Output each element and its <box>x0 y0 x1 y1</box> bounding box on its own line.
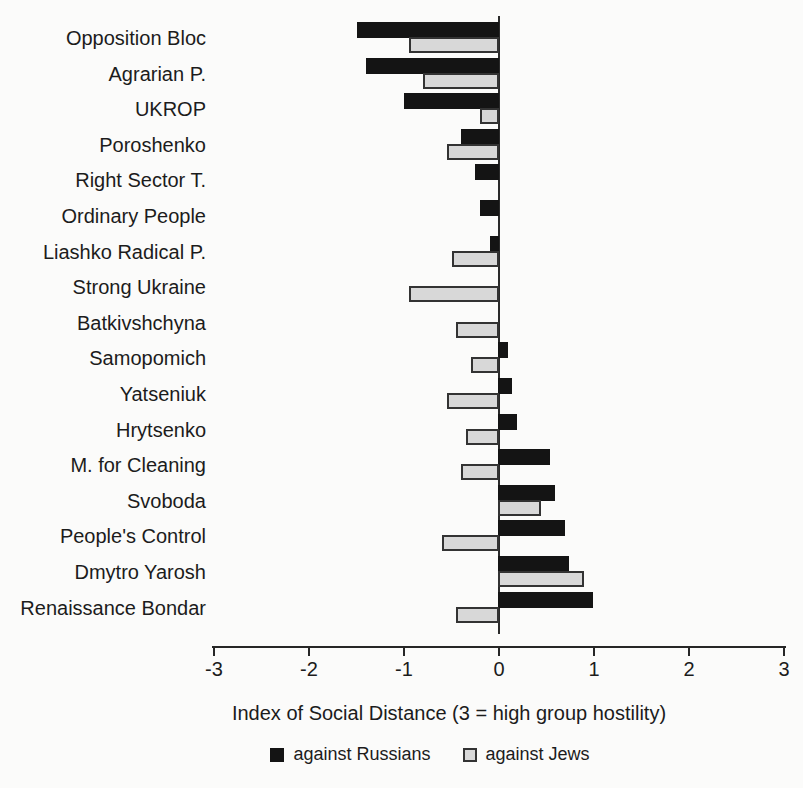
bar-jews <box>452 251 500 267</box>
category-label: Renaissance Bondar <box>0 597 206 620</box>
bar-russians <box>498 414 517 430</box>
category-label: Liashko Radical P. <box>0 241 206 264</box>
x-tick-mark <box>213 648 215 656</box>
x-tick-mark <box>308 648 310 656</box>
bar-jews <box>447 393 499 409</box>
x-axis: -3-2-10123 <box>214 646 784 690</box>
legend-item-against-jews: against Jews <box>463 744 590 765</box>
bar-jews <box>498 571 584 587</box>
x-tick-label: -1 <box>382 658 426 681</box>
x-tick-label: 2 <box>667 658 711 681</box>
x-tick-mark <box>593 648 595 656</box>
bar-russians <box>498 485 555 501</box>
bar-jews <box>409 286 499 302</box>
bar-russians <box>498 592 593 608</box>
social-distance-chart: Opposition BlocAgrarian P.UKROPPoroshenk… <box>0 0 803 788</box>
category-label: Strong Ukraine <box>0 276 206 299</box>
legend: against Russians against Jews <box>57 744 803 765</box>
category-label: Hrytsenko <box>0 419 206 442</box>
bar-jews <box>471 357 500 373</box>
legend-swatch-russians-icon <box>270 748 284 762</box>
bar-russians <box>498 342 508 358</box>
category-label: Ordinary People <box>0 205 206 228</box>
bar-russians <box>461 129 499 145</box>
bar-jews <box>498 500 541 516</box>
x-tick-label: 0 <box>477 658 521 681</box>
category-label: Svoboda <box>0 490 206 513</box>
x-tick-label: -3 <box>192 658 236 681</box>
bar-jews <box>423 73 499 89</box>
legend-item-against-russians: against Russians <box>270 744 430 765</box>
x-axis-title: Index of Social Distance (3 = high group… <box>149 702 749 725</box>
category-label: People's Control <box>0 525 206 548</box>
category-label: M. for Cleaning <box>0 454 206 477</box>
legend-swatch-jews-icon <box>463 748 477 762</box>
bar-jews <box>442 535 499 551</box>
bar-jews <box>447 144 499 160</box>
bar-jews <box>461 464 499 480</box>
bar-russians <box>490 236 500 252</box>
category-label: Batkivshchyna <box>0 312 206 335</box>
x-tick-mark <box>783 648 785 656</box>
category-label: Poroshenko <box>0 134 206 157</box>
bar-russians <box>366 58 499 74</box>
bar-russians <box>498 520 565 536</box>
bar-russians <box>357 22 500 38</box>
x-tick-label: 1 <box>572 658 616 681</box>
category-label: Samopomich <box>0 347 206 370</box>
x-tick-mark <box>688 648 690 656</box>
category-label: Opposition Bloc <box>0 27 206 50</box>
bar-russians <box>404 93 499 109</box>
category-label: Right Sector T. <box>0 169 206 192</box>
x-tick-label: -2 <box>287 658 331 681</box>
bar-russians <box>498 449 550 465</box>
plot-area <box>214 16 784 640</box>
category-label: Dmytro Yarosh <box>0 561 206 584</box>
bar-russians <box>480 200 499 216</box>
bar-jews <box>456 607 499 623</box>
category-label: Agrarian P. <box>0 63 206 86</box>
x-tick-mark <box>498 648 500 656</box>
bar-russians <box>475 164 499 180</box>
bar-russians <box>498 556 569 572</box>
category-label: UKROP <box>0 98 206 121</box>
category-labels: Opposition BlocAgrarian P.UKROPPoroshenk… <box>0 16 206 638</box>
legend-label-russians: against Russians <box>293 744 430 765</box>
bar-russians <box>498 378 512 394</box>
bar-jews <box>480 108 499 124</box>
bar-jews <box>456 322 499 338</box>
category-label: Yatseniuk <box>0 383 206 406</box>
legend-label-jews: against Jews <box>486 744 590 765</box>
bar-jews <box>466 429 499 445</box>
bar-jews <box>409 37 499 53</box>
x-tick-mark <box>403 648 405 656</box>
x-tick-label: 3 <box>762 658 803 681</box>
